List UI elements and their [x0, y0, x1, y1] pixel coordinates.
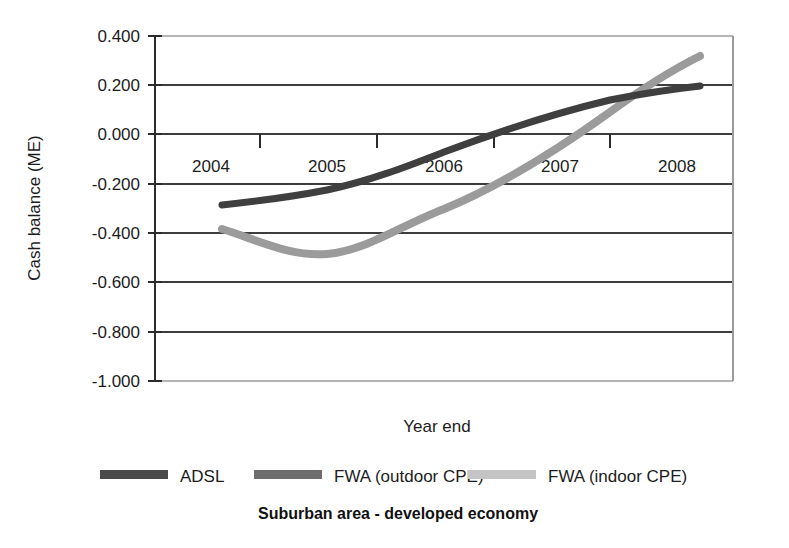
legend-label-fwa-outdoor-cpe: FWA (outdoor CPE)	[334, 467, 484, 486]
chart-caption-title: Suburban area - developed economy	[258, 505, 538, 522]
series-group	[222, 56, 700, 254]
x-axis-tick-labels: 2004 2005 2006 2007 2008	[192, 157, 696, 176]
x-tick-label-2004: 2004	[192, 157, 230, 176]
y-tick-label-2: 0.000	[97, 125, 140, 144]
chart-figure: 0.400 0.200 0.000 -0.200 -0.400 -0.600 -…	[0, 0, 789, 548]
x-tick-label-2005: 2005	[308, 157, 346, 176]
y-tick-label-4: -0.400	[92, 224, 140, 243]
y-axis-title: Cash balance (ME)	[25, 135, 44, 281]
y-tick-label-3: -0.200	[92, 175, 140, 194]
y-tick-label-6: -0.800	[92, 323, 140, 342]
x-tick-label-2007: 2007	[541, 157, 579, 176]
y-tick-label-1: 0.200	[97, 76, 140, 95]
cash-balance-line-chart: 0.400 0.200 0.000 -0.200 -0.400 -0.600 -…	[0, 0, 789, 548]
chart-legend: ADSL FWA (outdoor CPE) FWA (indoor CPE)	[100, 467, 687, 486]
legend-swatch-fwa-outdoor-cpe	[254, 470, 322, 479]
series-line-fwa-indoor-cpe	[222, 56, 700, 254]
y-tick-label-5: -0.600	[92, 273, 140, 292]
x-axis-title: Year end	[403, 417, 470, 436]
legend-label-fwa-indoor-cpe: FWA (indoor CPE)	[548, 467, 687, 486]
y-tick-label-0: 0.400	[97, 27, 140, 46]
legend-swatch-fwa-indoor-cpe	[468, 470, 536, 479]
y-axis-tick-labels: 0.400 0.200 0.000 -0.200 -0.400 -0.600 -…	[92, 27, 140, 391]
legend-swatch-adsl	[100, 470, 168, 479]
x-tick-label-2008: 2008	[658, 157, 696, 176]
legend-label-adsl: ADSL	[180, 467, 224, 486]
y-tick-label-7: -1.000	[92, 372, 140, 391]
